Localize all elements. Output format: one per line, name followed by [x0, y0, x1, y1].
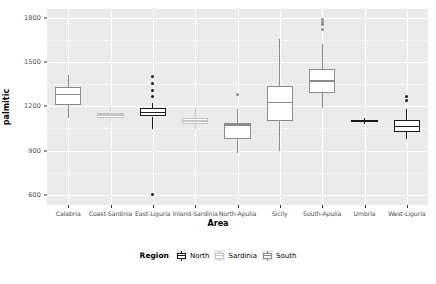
boxplot-east-liguria[interactable] — [140, 9, 166, 205]
legend-key-icon — [262, 250, 273, 261]
whisker-lower — [322, 93, 323, 109]
x-tick-mark — [280, 205, 281, 208]
x-tick-label: Umbria — [354, 210, 376, 217]
outlier-point — [405, 99, 408, 102]
median-line — [97, 114, 123, 115]
boxplot-coast-sardinia[interactable] — [97, 9, 123, 205]
whisker-lower — [237, 139, 238, 153]
x-tick-label: East-Liguria — [135, 210, 170, 217]
x-tick-label: Coast-Sardinia — [89, 210, 133, 217]
median-line — [224, 124, 250, 125]
legend-key-icon — [176, 250, 187, 261]
whisker-upper — [322, 44, 323, 69]
whisker-upper — [237, 109, 238, 123]
median-line — [351, 120, 377, 121]
median-line — [182, 120, 208, 121]
y-tick-mark — [44, 106, 47, 107]
median-line — [267, 102, 293, 103]
boxplot-west-liguria[interactable] — [394, 9, 420, 205]
x-tick-mark — [195, 205, 196, 208]
boxplot-south-apulia[interactable] — [309, 9, 335, 205]
y-tick-mark — [44, 150, 47, 151]
legend-item-sardinia[interactable]: Sardinia — [214, 250, 257, 261]
outlier-point — [151, 193, 154, 196]
plot-panel — [47, 9, 428, 205]
outlier-point — [151, 75, 154, 78]
y-axis-title: palmitic — [2, 89, 11, 125]
x-tick-mark — [153, 205, 154, 208]
median-line — [140, 112, 166, 113]
outlier-point — [236, 93, 239, 96]
boxplot-calabria[interactable] — [55, 9, 81, 205]
whisker-upper — [406, 109, 407, 120]
x-tick-mark — [365, 205, 366, 208]
boxplot-figure: palmitic Area Region NorthSardiniaSouth … — [0, 0, 436, 284]
legend: Region NorthSardiniaSouth — [0, 250, 436, 261]
x-tick-label: Sicily — [272, 210, 288, 217]
whisker-lower — [152, 117, 153, 129]
whisker-lower — [406, 132, 407, 139]
legend-key-icon — [214, 250, 225, 261]
y-tick-label: 600 — [28, 191, 41, 199]
y-tick-label: 1800 — [24, 14, 41, 22]
x-tick-label: West-Liguria — [388, 210, 425, 217]
x-tick-mark — [322, 205, 323, 208]
median-line — [394, 126, 420, 127]
x-tick-mark — [238, 205, 239, 208]
whisker-lower — [68, 105, 69, 118]
x-tick-label: North-Apulia — [219, 210, 257, 217]
boxplot-sicily[interactable] — [267, 9, 293, 205]
x-tick-mark — [407, 205, 408, 208]
outlier-point — [405, 95, 408, 98]
y-tick-label: 1200 — [24, 102, 41, 110]
boxplot-north-apulia[interactable] — [224, 9, 250, 205]
x-tick-mark — [68, 205, 69, 208]
legend-item-south[interactable]: South — [262, 250, 296, 261]
outlier-point — [321, 28, 324, 31]
y-tick-mark — [44, 62, 47, 63]
boxplot-inland-sardinia[interactable] — [182, 9, 208, 205]
outlier-point — [151, 89, 154, 92]
median-line — [55, 94, 81, 95]
y-tick-mark — [44, 17, 47, 18]
x-tick-label: Inland-Sardinia — [173, 210, 218, 217]
x-tick-label: South-Apulia — [303, 210, 341, 217]
outlier-point — [151, 82, 154, 85]
x-axis-title: Area — [0, 219, 436, 228]
whisker-upper — [279, 39, 280, 85]
whisker-lower — [110, 118, 111, 123]
y-tick-label: 1500 — [24, 58, 41, 66]
legend-title: Region — [140, 251, 169, 260]
y-tick-mark — [44, 194, 47, 195]
y-tick-label: 900 — [28, 147, 41, 155]
boxplot-umbria[interactable] — [351, 9, 377, 205]
box-iqr — [55, 87, 81, 105]
x-tick-label: Calabria — [56, 210, 81, 217]
whisker-upper — [68, 75, 69, 87]
legend-label: South — [276, 252, 296, 260]
median-line — [309, 80, 335, 81]
whisker-upper — [195, 108, 196, 119]
outlier-point — [321, 23, 324, 26]
whisker-lower — [195, 124, 196, 130]
whisker-lower — [364, 122, 365, 124]
legend-label: Sardinia — [228, 252, 257, 260]
outlier-point — [151, 95, 154, 98]
whisker-lower — [279, 121, 280, 151]
x-tick-mark — [111, 205, 112, 208]
box-iqr — [267, 86, 293, 121]
legend-item-north[interactable]: North — [176, 250, 210, 261]
legend-label: North — [190, 252, 210, 260]
